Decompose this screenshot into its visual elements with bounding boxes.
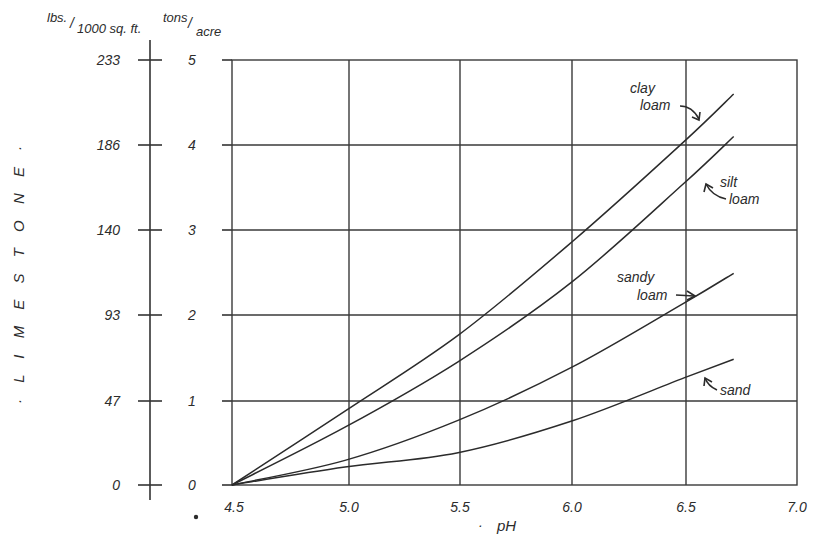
lbs-tick-0: 0	[112, 477, 120, 493]
x-tick-4.5: 4.5	[224, 499, 244, 515]
x-tick-7.0: 7.0	[787, 499, 807, 515]
annotation-clay-loam: clay loam	[630, 80, 700, 120]
tons-unit-header: tons / acre	[163, 10, 221, 39]
curve-sand	[232, 359, 734, 485]
tons-tick-3: 3	[188, 222, 196, 238]
x-tick-6.5: 6.5	[676, 499, 696, 515]
silt-label-line2: loam	[729, 191, 760, 207]
lbs-tick-186: 186	[97, 137, 121, 153]
x-axis-title: pH	[496, 517, 516, 534]
lbs-tick-233: 233	[96, 52, 121, 68]
tons-tick-1: 1	[188, 393, 196, 409]
annotation-sand: sand	[704, 378, 752, 398]
lbs-tick-47: 47	[104, 393, 121, 409]
tons-tick-4: 4	[188, 137, 196, 153]
annotation-sandy-loam: sandy loam	[617, 269, 695, 303]
tons-tick-5: 5	[188, 52, 196, 68]
silt-label-line1: silt	[720, 174, 738, 190]
lbs-unit-main: lbs.	[47, 10, 67, 25]
sand-label: sand	[720, 382, 752, 398]
tons-unit-main: tons	[163, 10, 188, 25]
lbs-tick-93: 93	[104, 307, 120, 323]
tons-axis: 0 1 2 3 4 5	[187, 52, 232, 493]
clay-label-line2: loam	[640, 97, 671, 113]
tons-unit-sub: acre	[196, 24, 221, 39]
x-tick-5.0: 5.0	[339, 499, 359, 515]
annotation-silt-loam: silt loam	[704, 174, 760, 207]
x-title-dot: ·	[478, 517, 483, 533]
lbs-axis: 0 47 93 140 186 233	[96, 40, 162, 500]
plot-grid	[232, 60, 797, 485]
curve-silt-loam	[232, 137, 734, 486]
lbs-unit-sub: 1000 sq. ft.	[77, 21, 141, 36]
x-axis-labels: 4.5 5.0 5.5 6.0 6.5 7.0 · pH	[194, 499, 807, 534]
sandy-label-line2: loam	[637, 287, 668, 303]
limestone-ph-chart: · L I M E S T O N E · lbs. / 1000 sq. ft…	[0, 0, 813, 539]
tons-unit-slash: /	[187, 15, 194, 31]
sandy-label-line1: sandy	[617, 269, 655, 285]
clay-arrow-icon	[680, 106, 699, 119]
curve-sandy-loam	[232, 273, 734, 485]
tons-tick-0: 0	[188, 477, 196, 493]
y-axis-title: · L I M E S T O N E ·	[10, 140, 27, 404]
x-tick-5.5: 5.5	[450, 499, 470, 515]
sandy-arrow-icon	[676, 295, 694, 296]
x-tick-6.0: 6.0	[562, 499, 582, 515]
lbs-tick-140: 140	[97, 222, 121, 238]
lbs-unit-slash: /	[69, 15, 76, 31]
tons-tick-2: 2	[187, 307, 196, 323]
dot-marker	[194, 515, 198, 519]
lbs-unit-header: lbs. / 1000 sq. ft.	[47, 10, 141, 36]
clay-label-line1: clay	[630, 80, 656, 96]
